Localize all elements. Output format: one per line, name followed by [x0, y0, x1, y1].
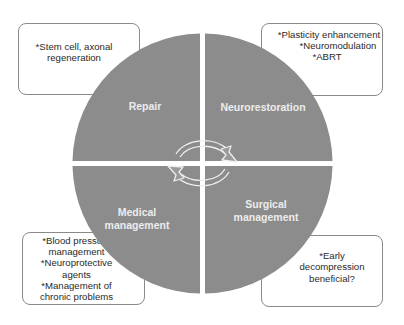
- label-neurorestoration: Neurorestoration: [215, 101, 311, 114]
- quadrant-repair: [73, 34, 201, 162]
- label-line: management: [226, 211, 306, 224]
- label-line: Surgical: [226, 198, 306, 211]
- cycle-diagram: [0, 0, 404, 325]
- label-line: Repair: [110, 100, 180, 113]
- label-line: management: [97, 219, 177, 232]
- label-medical-management: Medical management: [97, 206, 177, 232]
- label-surgical-management: Surgical management: [226, 198, 306, 224]
- quadrant-neurorestoration: [205, 34, 333, 162]
- quadrant-surgical-management: [205, 166, 333, 294]
- label-line: Medical: [97, 206, 177, 219]
- label-line: Neurorestoration: [215, 101, 311, 114]
- label-repair: Repair: [110, 100, 180, 113]
